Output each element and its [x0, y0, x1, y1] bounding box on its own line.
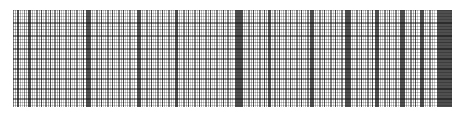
barcode-bar [253, 10, 254, 107]
barcode-bar [326, 10, 327, 107]
barcode-bar [157, 10, 159, 107]
barcode-bar [398, 10, 399, 107]
barcode-bar [212, 10, 213, 107]
barcode-bar [201, 10, 202, 107]
barcode-bar [391, 10, 392, 107]
barcode-bar [319, 10, 321, 107]
barcode-bar [164, 10, 165, 107]
barcode-bar [248, 10, 250, 107]
barcode-bar [315, 10, 316, 107]
barcode-bar [290, 10, 291, 107]
barcode-bar [341, 10, 343, 107]
barcode-bar [230, 10, 231, 107]
barcode-bar [181, 10, 182, 107]
barcode-bar [63, 10, 64, 107]
barcode-bar [114, 10, 115, 107]
barcode-bar [96, 10, 98, 107]
barcode-bar [112, 10, 113, 107]
barcode-bar [205, 10, 207, 107]
barcode-bar [24, 10, 25, 107]
barcode-bar [20, 10, 21, 107]
barcode-bar [432, 10, 433, 107]
barcode-bar [210, 10, 211, 107]
barcode-bar [345, 10, 351, 107]
barcode-bar [365, 10, 366, 107]
barcode-bar [417, 10, 418, 107]
barcode-bar [110, 10, 111, 107]
barcode-bar [410, 10, 412, 107]
barcode-bar [65, 10, 67, 107]
barcode-bar [356, 10, 358, 107]
barcode-bar [277, 10, 278, 107]
barcode-bar [292, 10, 293, 107]
barcode-bar [144, 10, 145, 107]
barcode-bar [22, 10, 23, 107]
barcode-bar [408, 10, 409, 107]
barcode-bar [188, 10, 189, 107]
barcode-bar [255, 10, 256, 107]
barcode-bar [57, 10, 58, 107]
barcode-bar [288, 10, 289, 107]
barcode-bar [43, 10, 44, 107]
barcode-bar [151, 10, 152, 107]
barcode-bar [192, 10, 193, 107]
barcode-bar [359, 10, 360, 107]
barcode-bar [171, 10, 172, 107]
barcode-bar [434, 10, 435, 107]
barcode-bar [235, 10, 243, 107]
barcode-bar [173, 10, 174, 107]
barcode-bar [330, 10, 332, 107]
barcode-bar [68, 10, 69, 107]
barcode-bar [72, 10, 73, 107]
barcode-bar [199, 10, 200, 107]
screenshot-root [0, 0, 464, 120]
barcode-bar [101, 10, 102, 107]
barcode-bar [15, 10, 16, 107]
barcode-bar [322, 10, 323, 107]
barcode-bar [310, 10, 314, 107]
barcode-bar [395, 10, 397, 107]
barcode-bar [437, 10, 452, 107]
barcode-bar [372, 10, 373, 107]
barcode-bar [129, 10, 131, 107]
barcode-bar [175, 10, 178, 107]
barcode-bar [137, 10, 141, 107]
barcode-bar [179, 10, 180, 107]
barcode-bar [406, 10, 407, 107]
barcode-bar [92, 10, 93, 107]
barcode-bar [420, 10, 424, 107]
barcode-bar [370, 10, 371, 107]
barcode-bar [59, 10, 60, 107]
barcode-bar [232, 10, 233, 107]
barcode-bar [125, 10, 126, 107]
barcode-bar [190, 10, 191, 107]
barcode-bar [225, 10, 226, 107]
barcode-bar [367, 10, 369, 107]
barcode-bar [81, 10, 82, 107]
barcode-bar [149, 10, 150, 107]
barcode-bar [41, 10, 42, 107]
barcode-bar [393, 10, 394, 107]
barcode-bar [246, 10, 247, 107]
barcode-bar [337, 10, 338, 107]
barcode-bar [32, 10, 33, 107]
barcode-bar [425, 10, 426, 107]
barcode-bar [317, 10, 318, 107]
barcode-bar [166, 10, 167, 107]
barcode-bar [194, 10, 196, 107]
barcode-plot [13, 10, 452, 107]
barcode-bar [296, 10, 298, 107]
barcode-bar [36, 10, 38, 107]
barcode-bar [74, 10, 75, 107]
barcode-bar [387, 10, 388, 107]
barcode-bar [221, 10, 222, 107]
barcode-bar [384, 10, 386, 107]
barcode-bar [415, 10, 416, 107]
barcode-bar [146, 10, 148, 107]
barcode-bar [186, 10, 187, 107]
barcode-bar [45, 10, 47, 107]
barcode-bar [123, 10, 124, 107]
barcode-bar [339, 10, 340, 107]
barcode-bar [375, 10, 379, 107]
barcode-bar [301, 10, 302, 107]
